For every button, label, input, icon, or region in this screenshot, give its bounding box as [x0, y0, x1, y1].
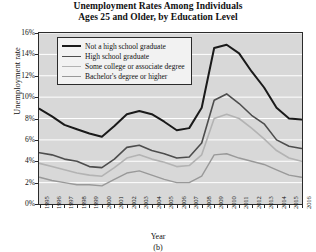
y-tick-label: 10%	[1, 93, 35, 101]
legend-item-label: High school graduate	[85, 52, 149, 61]
legend-line-icon	[62, 66, 81, 67]
x-tick-mark	[177, 204, 178, 208]
y-tick-mark	[35, 161, 39, 162]
y-tick-mark	[35, 204, 39, 205]
x-tick-mark	[139, 204, 140, 208]
y-tick-label: 8%	[1, 115, 35, 123]
chart-legend: Not a high school graduateHigh school gr…	[57, 37, 192, 85]
legend-item: High school graduate	[62, 51, 185, 61]
legend-line-icon	[62, 56, 81, 57]
x-tick-label: 2006	[180, 196, 187, 209]
x-tick-label: 1997	[67, 196, 74, 209]
x-tick-mark	[164, 204, 165, 208]
x-tick-mark	[114, 204, 115, 208]
x-tick-label: 2013	[267, 196, 274, 209]
x-tick-mark	[77, 204, 78, 208]
y-tick-mark	[35, 33, 39, 34]
plot-area: 0%2%4%6%8%10%12%14%16% 19951996199719981…	[38, 32, 303, 205]
x-tick-label: 2007	[192, 196, 199, 209]
figure-subcaption: (b)	[0, 243, 316, 252]
y-tick-mark	[35, 97, 39, 98]
legend-item-label: Bachelor's degree or higher	[85, 72, 167, 81]
y-tick-label: 12%	[1, 72, 35, 80]
legend-item: Some college or associate degree	[62, 61, 185, 71]
legend-item-label: Some college or associate degree	[85, 62, 185, 71]
x-tick-mark	[252, 204, 253, 208]
legend-item: Bachelor's degree or higher	[62, 71, 185, 81]
x-tick-mark	[127, 204, 128, 208]
x-tick-label: 2016	[305, 196, 312, 209]
x-tick-label: 2008	[205, 196, 212, 209]
x-tick-mark	[202, 204, 203, 208]
legend-item: Not a high school graduate	[62, 41, 185, 51]
x-tick-label: 1998	[80, 196, 87, 209]
x-tick-label: 2000	[105, 196, 112, 209]
x-tick-label: 2005	[167, 196, 174, 209]
x-tick-mark	[264, 204, 265, 208]
chart-title: Unemployment Rates Among Individuals Age…	[0, 1, 316, 23]
x-tick-label: 2004	[155, 196, 162, 209]
legend-line-icon	[62, 45, 81, 47]
x-tick-label: 1999	[92, 196, 99, 209]
y-tick-mark	[35, 76, 39, 77]
x-tick-mark	[239, 204, 240, 208]
y-tick-label: 16%	[1, 29, 35, 37]
x-tick-label: 2012	[255, 196, 262, 209]
chart-title-line-1: Unemployment Rates Among Individuals	[0, 1, 316, 12]
x-tick-mark	[302, 204, 303, 208]
x-tick-label: 2009	[217, 196, 224, 209]
x-axis-label: Year	[0, 232, 316, 241]
legend-line-icon	[62, 76, 81, 77]
x-tick-mark	[102, 204, 103, 208]
x-tick-mark	[277, 204, 278, 208]
x-tick-label: 2002	[130, 196, 137, 209]
y-tick-mark	[35, 140, 39, 141]
x-tick-label: 2003	[142, 196, 149, 209]
x-tick-mark	[289, 204, 290, 208]
y-tick-mark	[35, 54, 39, 55]
y-tick-label: 6%	[1, 136, 35, 144]
chart-title-line-2: Ages 25 and Older, by Education Level	[0, 12, 316, 23]
y-tick-mark	[35, 119, 39, 120]
x-tick-label: 2015	[292, 196, 299, 209]
y-tick-label: 4%	[1, 157, 35, 165]
x-tick-mark	[227, 204, 228, 208]
x-tick-mark	[214, 204, 215, 208]
x-tick-label: 1995	[43, 196, 50, 209]
x-tick-mark	[189, 204, 190, 208]
y-tick-label: 0%	[1, 200, 35, 208]
x-tick-mark	[89, 204, 90, 208]
x-tick-label: 1996	[55, 196, 62, 209]
x-tick-mark	[52, 204, 53, 208]
x-tick-label: 2010	[230, 196, 237, 209]
x-tick-mark	[40, 204, 41, 208]
legend-item-label: Not a high school graduate	[85, 42, 166, 51]
series-line-3	[40, 154, 302, 186]
x-tick-label: 2001	[117, 196, 124, 209]
y-tick-mark	[35, 183, 39, 184]
y-tick-label: 14%	[1, 50, 35, 58]
x-tick-label: 2014	[280, 196, 287, 209]
x-tick-label: 2011	[242, 197, 249, 209]
y-tick-label: 2%	[1, 179, 35, 187]
x-tick-mark	[64, 204, 65, 208]
x-tick-mark	[152, 204, 153, 208]
